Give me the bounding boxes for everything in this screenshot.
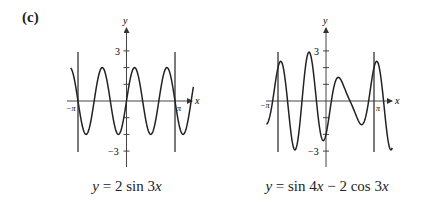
chart-left: y x 3 −3 −π π bbox=[66, 15, 200, 167]
x-axis-label: x bbox=[194, 95, 200, 106]
caption-right: y = sin 4x − 2 cos 3x bbox=[265, 178, 388, 195]
caption-minus: − bbox=[327, 178, 335, 194]
tick-label-neg-3: −3 bbox=[108, 146, 119, 157]
tick-label-neg-pi: −π bbox=[66, 104, 76, 113]
caption-lhs: y bbox=[265, 178, 272, 194]
caption-lhs: y bbox=[92, 178, 99, 194]
caption-var-a: x bbox=[317, 178, 324, 194]
plots-canvas: y x 3 −3 −π π y x 3 −3 −π π bbox=[0, 0, 425, 200]
caption-left: y = 2 sin 3x bbox=[92, 178, 161, 195]
caption-term-a: sin 4 bbox=[288, 178, 317, 194]
tick-label-3: 3 bbox=[314, 46, 319, 57]
chart-right: y x 3 −3 −π π bbox=[260, 15, 400, 167]
tick-label-pi: π bbox=[177, 104, 182, 113]
caption-term-b: 2 cos 3 bbox=[339, 178, 382, 194]
tick-label-3: 3 bbox=[115, 46, 120, 57]
x-axis-label: x bbox=[394, 95, 400, 106]
caption-var-b: x bbox=[382, 178, 389, 194]
caption-var: x bbox=[155, 178, 162, 194]
y-axis-label: y bbox=[122, 15, 128, 26]
caption-rhs: 2 sin 3 bbox=[115, 178, 155, 194]
y-axis-label: y bbox=[322, 15, 328, 26]
tick-label-pi: π bbox=[376, 104, 381, 113]
tick-label-neg-3: −3 bbox=[308, 146, 319, 157]
tick-label-neg-pi: −π bbox=[260, 101, 270, 110]
